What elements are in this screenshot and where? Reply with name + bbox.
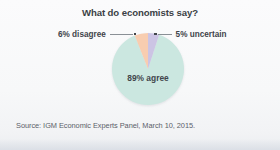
pie-slice-label-agree: 89% agree	[112, 73, 184, 83]
pie-graphic	[112, 33, 184, 105]
pie-svg	[112, 33, 184, 105]
callout-uncertain: 5% uncertain	[154, 28, 227, 40]
leader-line-uncertain	[158, 34, 172, 35]
callout-uncertain-label: 5% uncertain	[176, 30, 227, 39]
page-edge-band	[0, 139, 280, 150]
leader-line-disagree	[110, 34, 133, 35]
leader-dot-uncertain	[154, 33, 157, 36]
pie-chart-figure: What do economists say? 89% agree 6% dis…	[0, 0, 280, 150]
callout-disagree-label: 6% disagree	[58, 30, 106, 39]
leader-dot-disagree	[134, 33, 137, 36]
chart-title: What do economists say?	[0, 7, 280, 18]
source-note: Source: IGM Economic Experts Panel, Marc…	[16, 121, 195, 130]
callout-disagree: 6% disagree	[58, 28, 136, 40]
